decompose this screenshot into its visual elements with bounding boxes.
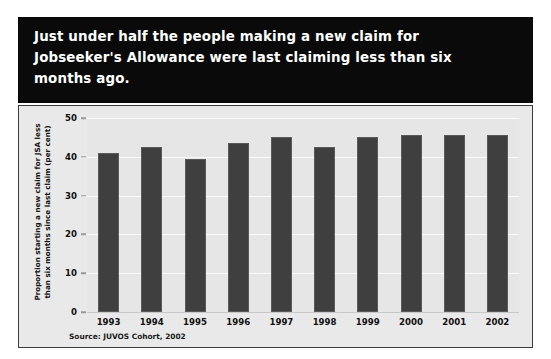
x-axis-tick-label: 2000 [389, 317, 432, 327]
plot-area [87, 118, 519, 312]
y-axis-tick-label: 20 [49, 229, 77, 239]
y-axis-tick-mark [81, 195, 86, 197]
figure: Just under half the people making a new … [0, 0, 551, 359]
bar [228, 143, 249, 312]
bar [271, 137, 292, 312]
bar [185, 159, 206, 312]
x-axis-tick-label: 1997 [260, 317, 303, 327]
x-axis-tick-label: 1998 [303, 317, 346, 327]
x-axis-tick-label: 1993 [87, 317, 130, 327]
y-axis-title: Proportion starting a new claim for JSA … [33, 114, 61, 310]
x-axis-tick-label: 1996 [217, 317, 260, 327]
bar [444, 135, 465, 312]
y-axis-tick-mark [81, 156, 86, 158]
bar [487, 135, 508, 312]
bar [357, 137, 378, 312]
title-band: Just under half the people making a new … [18, 17, 533, 103]
gridline [87, 118, 519, 119]
bar [141, 147, 162, 312]
y-axis-tick-mark [81, 117, 86, 119]
source-note: Source: JUVOS Cohort, 2002 [69, 332, 186, 341]
x-axis-tick-label: 1995 [173, 317, 216, 327]
x-axis-tick-label: 2001 [433, 317, 476, 327]
chart-panel: Proportion starting a new claim for JSA … [18, 105, 533, 348]
bar [314, 147, 335, 312]
x-axis-line [87, 312, 519, 313]
bar [98, 153, 119, 312]
y-axis-tick-mark [81, 234, 86, 236]
chart-title: Just under half the people making a new … [34, 26, 519, 89]
y-axis-tick-mark [81, 311, 86, 313]
y-axis-tick-label: 40 [49, 152, 77, 162]
y-axis-tick-label: 0 [49, 307, 77, 317]
y-axis-tick-label: 10 [49, 268, 77, 278]
y-axis-tick-label: 50 [49, 113, 77, 123]
y-axis-tick-label: 30 [49, 191, 77, 201]
y-axis-tick-mark [81, 272, 86, 274]
x-axis-tick-label: 1994 [130, 317, 173, 327]
x-axis-tick-label: 2002 [476, 317, 519, 327]
x-axis-tick-label: 1999 [346, 317, 389, 327]
bar [401, 135, 422, 312]
